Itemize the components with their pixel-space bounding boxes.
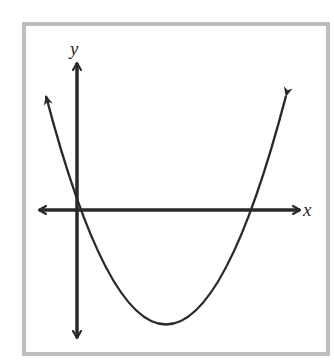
x-axis-label: x bbox=[302, 199, 312, 220]
y-axis-label: y bbox=[68, 38, 79, 59]
parabola-graph: y x bbox=[0, 0, 334, 361]
